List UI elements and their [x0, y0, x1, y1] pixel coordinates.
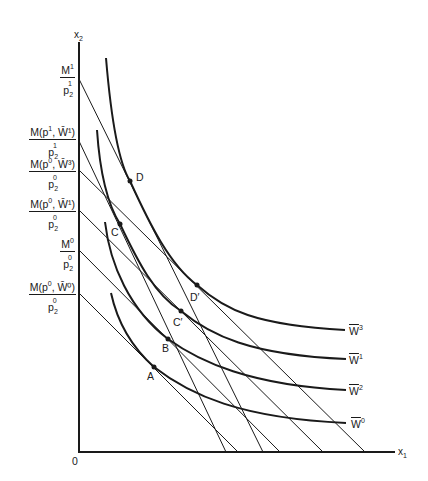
curve-label-W0: W0: [351, 417, 365, 429]
point-A: [152, 365, 157, 370]
y-label-M-p0-W3: M(p0, W̄³) p20: [29, 157, 76, 192]
point-label-D-prime: D′: [190, 292, 200, 303]
curve-label-W1: W1: [349, 353, 363, 365]
curve-label-sup: 0: [361, 417, 365, 424]
budget-line-M-p0-W0: [79, 293, 238, 452]
fraction-numerator: M0: [60, 237, 75, 252]
fraction-numerator: M(p0, W̄³): [29, 157, 76, 172]
curve-label-sup: 3: [359, 324, 363, 331]
fraction-denominator: p20: [60, 252, 75, 272]
x-axis-label-sub: 1: [403, 452, 407, 459]
num-main: M(p: [30, 281, 48, 293]
y-label-M-p0-W0: M(p0, W̄⁰) p20: [29, 280, 76, 315]
den-sub: 2: [54, 308, 58, 315]
y-label-M-p0-W1: M(p0, W̄¹) p20: [29, 197, 76, 232]
num-main: M(p: [30, 126, 48, 138]
indifference-curve-W3: [106, 58, 345, 330]
curve-label-W3: W3: [349, 324, 363, 336]
den-sub: 2: [54, 225, 58, 232]
num-main: M: [61, 64, 70, 76]
budget-line-M1-p1: [79, 79, 263, 452]
den-sup: 0: [53, 214, 57, 221]
curve-label-main: W: [349, 385, 359, 397]
fraction-denominator: p20: [29, 212, 76, 232]
num-rest: , W̄³): [52, 158, 75, 170]
fraction-numerator: M(p0, W̄¹): [29, 197, 76, 212]
den-sup: 1: [68, 80, 72, 87]
point-C-prime: [179, 309, 184, 314]
budget-line-M-p1-W1: [79, 141, 226, 452]
num-main: M(p: [30, 158, 48, 170]
point-label-A: A: [147, 371, 154, 382]
num-rest: , W̄¹): [52, 198, 75, 210]
fraction-denominator: p20: [29, 295, 76, 315]
curve-label-main: W: [351, 418, 361, 430]
num-rest: , W̄⁰): [52, 281, 75, 293]
curve-label-sup: 2: [359, 384, 363, 391]
point-label-C: C: [111, 227, 119, 238]
num-main: M: [61, 238, 70, 250]
point-D: [128, 179, 133, 184]
y-label-M1-over-p2-1: M1 p21: [60, 63, 75, 98]
fraction-numerator: M(p1, W̄¹): [29, 125, 76, 140]
den-sup: 0: [53, 174, 57, 181]
den-sup: 0: [53, 297, 57, 304]
y-axis-label: x2: [74, 30, 83, 42]
y-label-M0-over-p2-0: M0 p20: [60, 237, 75, 272]
origin-label: 0: [72, 456, 78, 467]
fraction-numerator: M1: [60, 63, 75, 78]
y-label-M-p1-W1: M(p1, W̄¹) p21: [29, 125, 76, 160]
budget-line-M0-p0: [79, 250, 280, 452]
y-axis-label-sub: 2: [79, 35, 83, 42]
point-label-D: D: [136, 172, 144, 183]
num-sup: 0: [70, 237, 74, 244]
point-D-prime: [195, 283, 200, 288]
den-sub: 2: [69, 265, 73, 272]
curve-label-main: W: [349, 325, 359, 337]
curve-label-sup: 1: [359, 353, 363, 360]
point-B: [166, 337, 171, 342]
fraction-numerator: M(p0, W̄⁰): [29, 280, 76, 295]
num-rest: , W̄¹): [52, 126, 75, 138]
point-label-C-prime: C′: [173, 317, 183, 328]
den-sup: 0: [68, 254, 72, 261]
curve-label-W2: W2: [349, 384, 363, 396]
fraction-denominator: p21: [60, 78, 75, 98]
den-sub: 2: [54, 185, 58, 192]
num-main: M(p: [30, 198, 48, 210]
fraction-denominator: p20: [29, 172, 76, 192]
num-sup: 1: [70, 63, 74, 70]
den-sup: 1: [53, 142, 57, 149]
indifference-curve-W1: [97, 130, 346, 359]
curve-label-main: W: [349, 354, 359, 366]
budget-line-M-p0-W3: [79, 170, 365, 452]
den-sub: 2: [69, 91, 73, 98]
x-axis-label: x1: [398, 447, 407, 459]
point-label-B: B: [162, 343, 169, 354]
